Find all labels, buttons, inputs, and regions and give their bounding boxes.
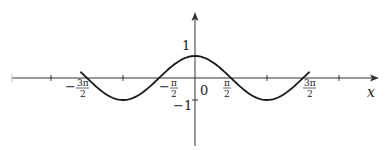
svg-text:−: − [65, 79, 76, 94]
svg-text:2: 2 [307, 89, 313, 99]
svg-text:π: π [224, 78, 230, 88]
svg-text:π: π [171, 78, 177, 88]
tick-label-pi-2: π 2 [223, 78, 231, 99]
svg-text:3π: 3π [77, 78, 89, 88]
tick-label-3pi-2: 3π 2 [303, 78, 316, 99]
y-label-one: 1 [182, 38, 190, 53]
svg-text:−: − [159, 79, 170, 94]
y-label-minus-one: −1 [173, 98, 192, 113]
cosine-graph: 1 −1 0 x − 3π 2 − π 2 π 2 3π 2 [0, 0, 386, 150]
svg-text:2: 2 [171, 89, 177, 99]
svg-text:2: 2 [80, 89, 86, 99]
svg-text:3π: 3π [304, 78, 316, 88]
x-axis-label: x [367, 84, 375, 100]
tick-label-neg-pi-2: − π 2 [159, 78, 178, 99]
tick-label-neg-3pi-2: − 3π 2 [65, 78, 89, 99]
origin-label: 0 [200, 83, 208, 98]
svg-text:2: 2 [224, 89, 230, 99]
